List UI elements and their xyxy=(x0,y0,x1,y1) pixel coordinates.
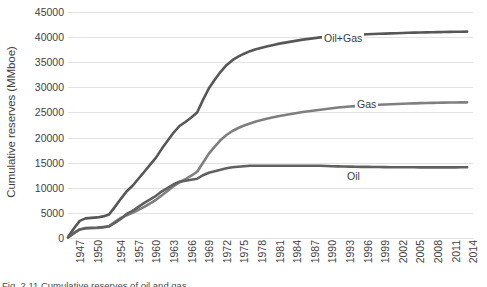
x-axis-tick-label: 1990 xyxy=(320,228,332,251)
x-axis-tick-label: 1999 xyxy=(373,228,385,251)
x-axis-tick-label: 1950 xyxy=(86,228,98,251)
x-axis-tick-label: 1984 xyxy=(285,228,297,251)
y-axis-tick-labels: 4500040000350003000025000200001500010000… xyxy=(22,0,68,244)
y-axis-tick-label: 45000 xyxy=(35,6,64,18)
x-axis-tick-label: 1960 xyxy=(144,228,156,251)
figure-caption: Fig. 2.11 Cumulative reserves of oil and… xyxy=(2,280,187,287)
series-label-oil: Oil xyxy=(345,170,362,182)
x-axis-tick-label: 1969 xyxy=(197,228,209,251)
x-axis-tick-label: 2002 xyxy=(391,228,403,251)
x-axis-tick-label: 1966 xyxy=(180,228,192,251)
x-axis-tick-label: 1996 xyxy=(356,228,368,251)
x-axis-tick-label: 1954 xyxy=(109,228,121,251)
series-line-oil-plus-gas xyxy=(68,32,467,237)
y-axis-title-text: Cumulative reserves (MMboe) xyxy=(5,46,17,197)
series-label-gas: Gas xyxy=(355,98,378,110)
x-axis-tick-labels: 1947195019541957196019631966196919721975… xyxy=(68,240,473,282)
x-axis-tick-label: 2005 xyxy=(408,228,420,251)
series-line-gas xyxy=(68,102,467,237)
plot-area xyxy=(68,12,473,238)
x-axis-tick-label: 1978 xyxy=(250,228,262,251)
y-axis-tick-label: 10000 xyxy=(35,182,64,194)
x-axis-tick-label: 2011 xyxy=(444,229,456,252)
x-axis-tick-label: 2008 xyxy=(426,228,438,251)
x-axis-tick-label: 1981 xyxy=(268,228,280,251)
y-axis-tick-label: 20000 xyxy=(35,132,64,144)
x-axis-tick-label: 2014 xyxy=(461,228,473,251)
x-axis-tick-label: 1957 xyxy=(127,228,139,251)
x-axis-tick-label: 1963 xyxy=(162,228,174,251)
x-axis-tick-label: 1987 xyxy=(303,228,315,251)
y-axis-tick-label: 30000 xyxy=(35,81,64,93)
x-axis-tick-label: 1993 xyxy=(338,228,350,251)
y-axis-tick-label: 25000 xyxy=(35,106,64,118)
series-lines xyxy=(68,12,473,238)
y-axis-tick-label: 15000 xyxy=(35,157,64,169)
x-axis-tick-label: 1972 xyxy=(215,228,227,251)
y-axis-tick-label: 40000 xyxy=(35,31,64,43)
series-label-oil-plus-gas: Oil+Gas xyxy=(322,32,364,44)
series-line-oil xyxy=(68,166,467,238)
x-axis-tick-label: 1947 xyxy=(68,228,80,251)
y-axis-title: Cumulative reserves (MMboe) xyxy=(0,0,22,244)
y-axis-tick-label: 5000 xyxy=(41,207,64,219)
y-axis-tick-label: 35000 xyxy=(35,56,64,68)
y-axis-tick-label: 0 xyxy=(58,232,64,244)
x-axis-tick-label: 1975 xyxy=(232,228,244,251)
